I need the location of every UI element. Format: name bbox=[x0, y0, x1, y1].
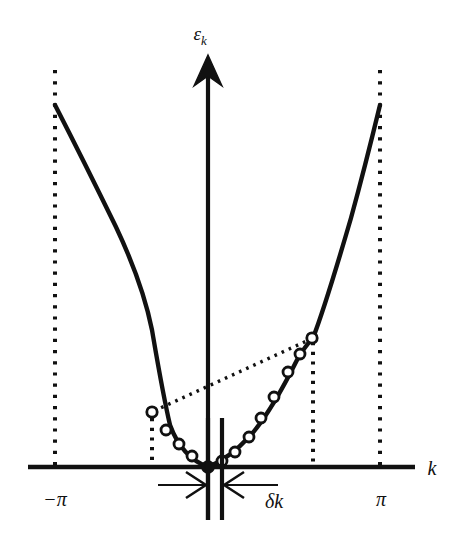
x-tick-label-left: −π bbox=[43, 488, 67, 510]
x-axis-label: k bbox=[428, 457, 438, 479]
delta-k-label: δk bbox=[265, 490, 284, 512]
brillouin-zone-edges bbox=[55, 70, 380, 467]
dispersion-diagram: εk k −π π δk bbox=[0, 0, 459, 540]
dispersion-curve-left-branch bbox=[55, 105, 208, 467]
data-point-marker bbox=[283, 367, 293, 377]
data-point-marker bbox=[174, 439, 184, 449]
data-point-marker bbox=[307, 333, 317, 343]
dispersion-curve-right-branch bbox=[208, 105, 380, 467]
y-axis-label: εk bbox=[193, 23, 207, 48]
data-point-marker bbox=[230, 447, 240, 457]
y-axis-label-subscript: k bbox=[201, 33, 207, 48]
data-point-marker bbox=[295, 349, 305, 359]
x-tick-label-right: π bbox=[376, 488, 387, 510]
data-point-marker bbox=[256, 413, 266, 423]
data-point-marker bbox=[269, 392, 279, 402]
data-point-marker bbox=[161, 425, 171, 435]
data-point-markers bbox=[147, 333, 317, 473]
data-point-marker bbox=[147, 407, 157, 417]
figure-container: εk k −π π δk bbox=[0, 0, 459, 540]
data-point-marker bbox=[244, 432, 254, 442]
dispersion-curve bbox=[55, 105, 380, 467]
figure-text-labels: εk k −π π δk bbox=[43, 23, 437, 512]
data-point-marker bbox=[187, 451, 197, 461]
